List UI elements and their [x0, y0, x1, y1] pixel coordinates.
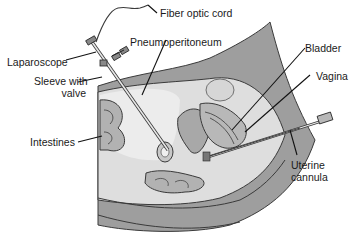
label-intestines: Intestines [30, 136, 75, 148]
label-pneumoperitoneum: Pneumoperitoneum [130, 36, 222, 48]
label-laparoscope: Laparoscope [7, 56, 68, 68]
label-fiber-optic-cord: Fiber optic cord [160, 7, 232, 19]
label-uterine: Uterine [291, 159, 325, 171]
label-valve: valve [34, 87, 86, 99]
laparoscopy-diagram: Fiber optic cord Laparoscope Pneumoperit… [0, 0, 353, 239]
label-bladder: Bladder [305, 42, 341, 54]
label-vagina: Vagina [316, 70, 348, 82]
label-cannula: cannula [291, 171, 328, 183]
bladder [206, 79, 234, 101]
label-sleeve-with: Sleeve with [34, 75, 86, 87]
